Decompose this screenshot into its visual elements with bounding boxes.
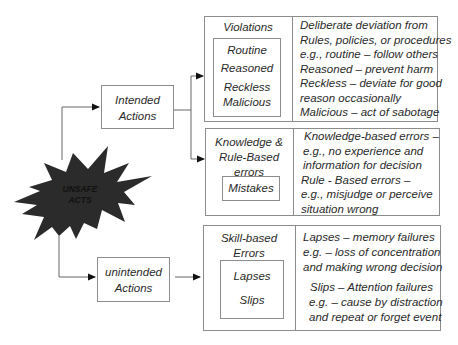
violation-reasoned: Reasoned bbox=[213, 61, 281, 75]
skill-desc-line: Slips – Attention failures bbox=[310, 280, 433, 294]
knowledge-title-line: Knowledge & bbox=[205, 135, 293, 149]
unsafe-label-line1: UNSAFE bbox=[50, 184, 110, 195]
skill-types-box: Lapses Slips bbox=[220, 260, 284, 319]
skill-desc-line: and making wrong decision bbox=[303, 260, 442, 274]
intended-line1: Intended bbox=[102, 92, 173, 108]
unintended-line1: unintended bbox=[98, 264, 169, 280]
knowledge-desc-line: situation wrong bbox=[301, 202, 378, 216]
unsafe-label-line2: ACTS bbox=[50, 195, 110, 206]
skill-divider bbox=[295, 225, 296, 331]
mistakes-box: Mistakes bbox=[222, 176, 280, 201]
skill-title: Skill-based Errors bbox=[203, 231, 295, 261]
skill-desc-line: e.g. – cause by distraction bbox=[309, 295, 443, 309]
knowledge-desc-line: Rule - Based errors – bbox=[301, 173, 410, 187]
mistakes-label: Mistakes bbox=[223, 181, 279, 195]
intended-actions-box: Intended Actions bbox=[101, 85, 174, 129]
intended-line2: Actions bbox=[102, 108, 173, 124]
knowledge-title-line: Rule-Based bbox=[205, 150, 293, 164]
violations-desc-line: Reasoned – prevent harm bbox=[300, 62, 433, 76]
skill-desc-line: e.g. – loss of concentration bbox=[303, 245, 440, 259]
violations-desc-line: Malicious – act of sabotage bbox=[300, 105, 439, 119]
knowledge-desc-line: Knowledge-based errors – bbox=[304, 129, 439, 143]
knowledge-desc-line: e.g., no experience and bbox=[303, 144, 423, 158]
violations-desc-line: Rules, policies, or procedures bbox=[300, 33, 452, 47]
violation-malicious: Malicious bbox=[213, 95, 281, 109]
unintended-line2: Actions bbox=[98, 280, 169, 296]
violation-reckless: Reckless bbox=[213, 80, 281, 94]
intended-actions-label: Intended Actions bbox=[102, 92, 173, 124]
knowledge-divider bbox=[293, 128, 294, 216]
violations-desc-line: Deliberate deviation from bbox=[300, 18, 428, 32]
unintended-actions-box: unintended Actions bbox=[97, 257, 170, 302]
violations-desc-line: e.g., routine – follow others bbox=[300, 47, 438, 61]
violation-routine: Routine bbox=[213, 43, 281, 57]
skill-title-line: Errors bbox=[203, 246, 295, 261]
violations-desc-line: reason occasionally bbox=[300, 91, 401, 105]
skill-desc-line: and repeat or forget event bbox=[309, 310, 441, 324]
violations-desc-line: Reckless – deviate for good bbox=[300, 76, 442, 90]
skill-desc-line: Lapses – memory failures bbox=[303, 230, 435, 244]
knowledge-desc-line: information for decision bbox=[303, 158, 422, 172]
skill-title-line: Skill-based bbox=[203, 231, 295, 246]
violations-divider bbox=[292, 16, 293, 122]
unintended-actions-label: unintended Actions bbox=[98, 264, 169, 296]
knowledge-title: Knowledge & Rule-Based errors bbox=[205, 135, 293, 179]
knowledge-desc-line: e.g., misjudge or perceive bbox=[301, 187, 433, 201]
unsafe-acts-label: UNSAFE ACTS bbox=[50, 184, 110, 206]
skill-lapses: Lapses bbox=[221, 269, 283, 283]
violations-title: Violations bbox=[205, 20, 291, 34]
skill-slips: Slips bbox=[221, 293, 283, 307]
